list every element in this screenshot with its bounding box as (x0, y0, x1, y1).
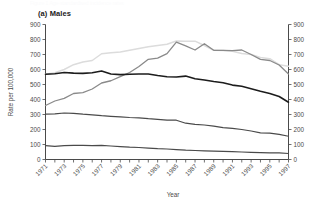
data-series-group (46, 41, 289, 154)
y-tick-label-right: 900 (294, 21, 305, 28)
x-tick-label: 1971 (34, 162, 49, 177)
x-tick-label: 1975 (71, 162, 86, 177)
y-tick-label-right: 500 (294, 81, 305, 88)
y-tick-label: 200 (30, 126, 41, 133)
y-tick-label: 800 (30, 36, 41, 43)
series-4-medium (46, 113, 289, 136)
x-tick-label: 1989 (202, 162, 217, 177)
x-tick-label: 1977 (90, 162, 105, 177)
y-tick-label-right: 400 (294, 96, 305, 103)
x-tick-label: 1987 (183, 162, 198, 177)
left-axis-tick-labels: 0100200300400500600700800900 (30, 21, 41, 163)
y-tick-label-right: 0 (294, 156, 298, 163)
line-chart: 0100200300400500600700800900 01002003004… (0, 0, 317, 206)
x-axis-title: Year (167, 191, 180, 198)
x-tick-label: 1993 (239, 162, 254, 177)
y-tick-label: 400 (30, 96, 41, 103)
x-tick-label: 1979 (109, 162, 124, 177)
y-tick-label-right: 100 (294, 141, 305, 148)
y-tick-label: 100 (30, 141, 41, 148)
series-5-lowest (46, 145, 289, 153)
x-tick-label: 1997 (277, 162, 292, 177)
right-axis-tick-labels: 0100200300400500600700800900 (294, 21, 305, 163)
y-tick-label: 900 (30, 21, 41, 28)
y-axis-title: Rate per 100,000 (7, 67, 15, 116)
y-tick-label: 600 (30, 66, 41, 73)
y-tick-label-right: 700 (294, 51, 305, 58)
x-tick-label: 1981 (127, 162, 142, 177)
y-tick-label-right: 800 (294, 36, 305, 43)
y-tick-label: 700 (30, 51, 41, 58)
x-tick-label: 1973 (53, 162, 68, 177)
x-tick-label: 1995 (258, 162, 273, 177)
x-tick-label: 1991 (221, 162, 236, 177)
series-3-dark (46, 71, 289, 102)
y-tick-label: 500 (30, 81, 41, 88)
series-1-light-grey (46, 41, 289, 74)
y-tick-label: 0 (37, 156, 41, 163)
y-tick-label-right: 300 (294, 111, 305, 118)
y-tick-label: 300 (30, 111, 41, 118)
x-tick-label: 1985 (165, 162, 180, 177)
x-tick-label: 1983 (146, 162, 161, 177)
y-tick-label-right: 200 (294, 126, 305, 133)
figure-panel-a-males: Figure 1 Age-standardised incidence rate… (0, 0, 317, 206)
axes: 0100200300400500600700800900 01002003004… (7, 21, 305, 198)
x-axis-tick-labels: 1971197319751977197919811983198519871989… (34, 162, 292, 177)
y-tick-label-right: 600 (294, 66, 305, 73)
